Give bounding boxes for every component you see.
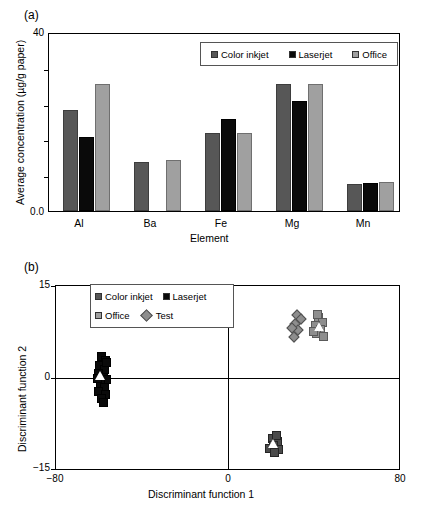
legend-row-2: Office Test xyxy=(95,306,229,325)
panel-b-legend: Color inkjet Laserjet Office Test xyxy=(90,284,234,328)
point-laserjet xyxy=(102,358,111,367)
point-color-inkjet xyxy=(270,448,279,457)
panel-a-legend: Color inkjet Laserjet Office xyxy=(200,42,398,66)
x-category-mg: Mg xyxy=(269,217,315,229)
panel-a-x-axis-title: Element xyxy=(190,232,229,244)
panel-b-y-axis-title: Discriminant function 2 xyxy=(16,346,28,452)
legend-item-laserjet: Laserjet xyxy=(163,291,207,302)
panel-b-scatter-chart: (b) Discriminant function 2 xyxy=(0,252,431,507)
light-gray-square-icon xyxy=(352,51,359,58)
point-office xyxy=(319,332,328,341)
legend-label: Color inkjet xyxy=(105,291,153,302)
panel-b-label: (b) xyxy=(24,260,39,274)
point-laserjet xyxy=(99,398,108,407)
x-category-mn: Mn xyxy=(340,217,386,229)
panel-a-y-tick-40: 40 xyxy=(4,27,44,38)
bar-fe-laserjet xyxy=(221,119,236,211)
dark-gray-square-icon xyxy=(95,293,102,300)
light-gray-square-icon xyxy=(95,312,102,319)
panel-a-label: (a) xyxy=(24,8,39,22)
panel-a-y-axis-title: Average concentration (µg/g paper) xyxy=(14,40,26,205)
black-square-icon xyxy=(163,293,170,300)
bar-mn-office xyxy=(379,182,394,211)
x-category-al: Al xyxy=(56,217,102,229)
centroid-office xyxy=(314,322,324,331)
y-tick-0 xyxy=(51,378,56,379)
legend-item-test: Test xyxy=(140,310,173,321)
legend-label: Office xyxy=(105,310,130,321)
y-minor-tick xyxy=(44,70,49,71)
y-minor-tick xyxy=(44,177,49,178)
bar-fe-color-inkjet xyxy=(205,133,220,211)
bar-mg-office xyxy=(308,84,323,212)
y-tick-neg15 xyxy=(51,469,56,470)
bar-al-color-inkjet xyxy=(63,110,78,211)
bar-al-laserjet xyxy=(79,137,94,211)
gray-diamond-icon xyxy=(140,309,153,322)
centroid-color-inkjet xyxy=(268,439,278,448)
bar-mg-color-inkjet xyxy=(276,84,291,212)
bar-mg-laserjet xyxy=(292,101,307,211)
dark-gray-square-icon xyxy=(211,51,218,58)
legend-item-color-inkjet: Color inkjet xyxy=(95,291,153,302)
legend-item-laserjet: Laserjet xyxy=(289,49,333,60)
panel-b-y-tick-neg15: −15 xyxy=(8,462,50,473)
point-office xyxy=(313,310,322,319)
y-minor-tick xyxy=(44,106,49,107)
bar-ba-office xyxy=(166,160,181,211)
legend-item-office: Office xyxy=(352,49,387,60)
legend-label: Test xyxy=(156,310,173,321)
legend-row-1: Color inkjet Laserjet xyxy=(95,287,229,306)
bar-mn-color-inkjet xyxy=(347,184,362,211)
panel-b-x-tick-0: 0 xyxy=(208,473,248,484)
legend-item-color-inkjet: Color inkjet xyxy=(211,49,269,60)
bar-mn-laserjet xyxy=(363,183,378,211)
legend-label: Color inkjet xyxy=(221,49,269,60)
panel-b-x-tick-neg80: −80 xyxy=(35,473,75,484)
panel-b-x-axis-title: Discriminant function 1 xyxy=(148,488,254,500)
black-square-icon xyxy=(289,51,296,58)
legend-label: Office xyxy=(362,49,387,60)
bar-ba-color-inkjet xyxy=(134,162,149,211)
y-tick-15 xyxy=(51,286,56,287)
legend-label: Laserjet xyxy=(299,49,333,60)
panel-a-y-tick-0: 0.0 xyxy=(4,206,44,217)
centroid-laserjet xyxy=(95,371,105,380)
legend-label: Laserjet xyxy=(173,291,207,302)
panel-a-bar-chart: (a) Average concentration (µg/g paper) 4… xyxy=(0,0,431,252)
bar-al-office xyxy=(95,84,110,212)
legend-item-office: Office xyxy=(95,310,130,321)
y-minor-tick xyxy=(44,141,49,142)
panel-b-y-tick-0: 0 xyxy=(8,371,50,382)
panel-b-y-tick-15: 15 xyxy=(8,279,50,290)
panel-b-x-tick-80: 80 xyxy=(380,473,420,484)
bar-fe-office xyxy=(237,133,252,211)
x-category-fe: Fe xyxy=(198,217,244,229)
x-category-ba: Ba xyxy=(127,217,173,229)
